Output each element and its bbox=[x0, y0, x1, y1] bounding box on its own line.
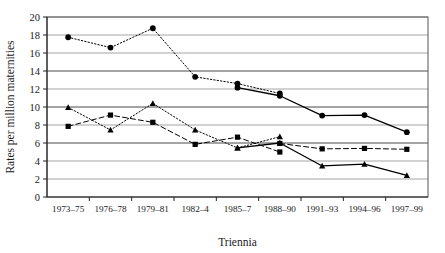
data-point-circle bbox=[192, 74, 198, 80]
series-line bbox=[238, 88, 407, 133]
series-line bbox=[280, 143, 407, 149]
data-point-square bbox=[66, 124, 71, 129]
data-point-triangle bbox=[107, 127, 113, 133]
data-point-square bbox=[150, 120, 155, 125]
y-tick-label: 16 bbox=[30, 48, 41, 59]
series-series-circle-dotted bbox=[65, 25, 282, 96]
x-axis-title: Triennia bbox=[218, 236, 257, 248]
data-point-circle bbox=[235, 85, 241, 91]
y-tick-label: 0 bbox=[35, 192, 40, 203]
data-point-square bbox=[193, 142, 198, 147]
y-tick-label: 4 bbox=[35, 156, 41, 167]
x-tick-label: 1997–99 bbox=[391, 204, 424, 214]
data-point-circle bbox=[319, 113, 325, 119]
data-point-circle bbox=[150, 25, 156, 31]
series-series-circle-solid bbox=[235, 85, 410, 135]
data-point-circle bbox=[108, 45, 114, 51]
y-tick-label: 6 bbox=[35, 138, 40, 149]
data-point-square bbox=[108, 113, 113, 118]
y-tick-label: 8 bbox=[35, 120, 40, 131]
data-point-circle bbox=[362, 112, 368, 118]
x-tick-label: 1988–90 bbox=[264, 204, 297, 214]
data-point-triangle bbox=[150, 100, 156, 106]
data-point-square bbox=[277, 149, 282, 154]
data-point-circle bbox=[277, 93, 283, 99]
y-axis: 02468101214161820 bbox=[30, 12, 48, 203]
y-tick-label: 20 bbox=[30, 12, 41, 23]
x-tick-label: 1976–78 bbox=[94, 204, 127, 214]
y-tick-label: 12 bbox=[30, 84, 41, 95]
data-point-square bbox=[320, 146, 325, 151]
x-tick-label: 1991–93 bbox=[306, 204, 339, 214]
data-point-square bbox=[235, 135, 240, 140]
data-point-square bbox=[404, 147, 409, 152]
x-tick-label: 1973–75 bbox=[52, 204, 85, 214]
line-chart: 024681012141618201973–751976–781979–8119… bbox=[0, 0, 445, 253]
series-series-square-dashed-early bbox=[66, 113, 283, 155]
x-tick-label: 1985–7 bbox=[224, 204, 252, 214]
x-tick-label: 1982–4 bbox=[181, 204, 209, 214]
data-point-triangle bbox=[192, 127, 198, 133]
y-axis-title: Rates per million maternities bbox=[4, 40, 17, 174]
series-line bbox=[68, 28, 280, 93]
y-tick-label: 2 bbox=[35, 174, 40, 185]
y-tick-label: 18 bbox=[30, 30, 41, 41]
data-point-square bbox=[362, 146, 367, 151]
data-point-triangle bbox=[277, 134, 283, 140]
x-tick-label: 1994–96 bbox=[348, 204, 381, 214]
y-tick-label: 10 bbox=[30, 102, 41, 113]
gridlines bbox=[47, 17, 428, 179]
data-point-circle bbox=[404, 129, 410, 135]
data-point-circle bbox=[65, 34, 71, 40]
y-tick-label: 14 bbox=[30, 66, 41, 77]
x-axis: 1973–751976–781979–811982–41985–71988–90… bbox=[52, 197, 423, 214]
data-point-square bbox=[277, 141, 282, 146]
x-tick-label: 1979–81 bbox=[137, 204, 170, 214]
chart-container: 024681012141618201973–751976–781979–8119… bbox=[0, 0, 445, 253]
